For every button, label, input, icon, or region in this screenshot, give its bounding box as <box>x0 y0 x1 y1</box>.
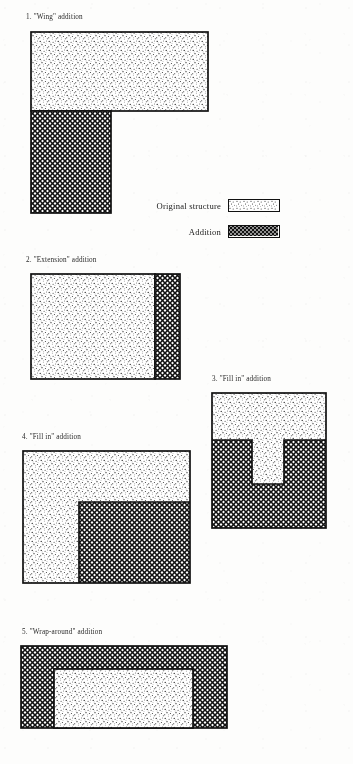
fig5-original-inner-block <box>54 669 193 728</box>
legend-label-original-structure: Original structure <box>157 201 221 211</box>
figure-5-wrap-around-addition <box>20 645 232 731</box>
figure-2-extension-addition <box>30 273 182 381</box>
legend-swatch-original-structure <box>228 199 280 212</box>
fig3-addition-lower-right <box>284 440 326 528</box>
figure-2-caption: 2. "Extension" addition <box>26 256 97 265</box>
figure-page: 1. "Wing" addition Original structure Ad… <box>0 0 353 764</box>
figure-1-caption: 1. "Wing" addition <box>26 13 83 22</box>
legend-row-addition: Addition <box>120 225 280 238</box>
figure-1-wing-addition <box>30 31 210 215</box>
figure-4-caption: 4. "Fill in" addition <box>22 433 81 442</box>
fig3-addition-lower-left <box>212 440 252 528</box>
fig3-addition-lower-center <box>252 484 284 528</box>
figure-3-caption: 3. "Fill in" addition <box>212 375 271 384</box>
fig3-original-center-tongue <box>252 440 284 484</box>
figure-3-fill-in-addition <box>211 392 329 530</box>
fig3-original-top-band <box>212 393 326 440</box>
fig4-addition-corner-fill <box>79 502 190 583</box>
figure-4-fill-in-addition <box>22 450 194 586</box>
fig1-addition-wing <box>31 111 111 213</box>
legend-label-addition: Addition <box>189 227 221 237</box>
legend-swatch-addition <box>228 225 280 238</box>
figure-5-caption: 5. "Wrap-around" addition <box>22 628 102 637</box>
fig2-original-block <box>31 274 155 379</box>
fig1-original-block <box>31 32 208 111</box>
legend-row-original-structure: Original structure <box>120 199 280 212</box>
fig2-addition-extension-strip <box>155 274 180 379</box>
